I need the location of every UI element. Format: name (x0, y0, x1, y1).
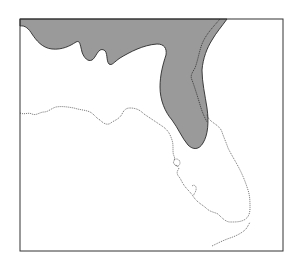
florida-keys (212, 222, 250, 246)
range-map (0, 0, 296, 265)
map-frame (20, 19, 283, 251)
tampa-bay (174, 159, 180, 166)
charlotte-harbor (192, 185, 196, 196)
coastline (20, 107, 250, 222)
range-shaded-region (20, 19, 227, 149)
